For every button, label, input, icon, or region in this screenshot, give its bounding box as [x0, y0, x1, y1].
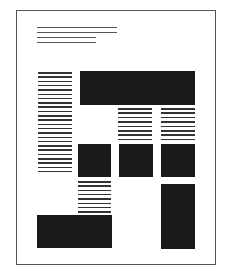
text-line — [38, 158, 72, 160]
text-line — [118, 130, 152, 132]
text-line — [38, 154, 72, 156]
tall-block-right — [161, 184, 195, 249]
square-block-middle — [119, 144, 153, 177]
text-line — [38, 94, 72, 96]
text-line — [38, 149, 72, 151]
text-line — [38, 98, 72, 100]
header-line — [37, 32, 117, 33]
text-line — [78, 194, 111, 196]
text-line — [118, 121, 152, 123]
text-line — [38, 137, 72, 139]
text-line — [38, 81, 72, 83]
text-line — [161, 139, 195, 141]
text-line — [38, 162, 72, 164]
header-line — [37, 27, 117, 28]
text-line — [38, 128, 72, 130]
top-banner-block — [80, 71, 195, 105]
text-line — [161, 130, 195, 132]
text-line — [38, 145, 72, 147]
text-line — [38, 124, 72, 126]
text-line — [38, 132, 72, 134]
left-column-text — [38, 72, 72, 175]
text-line — [78, 181, 111, 183]
text-line — [78, 211, 111, 213]
text-line — [118, 112, 152, 114]
square-block-right — [161, 144, 195, 177]
text-line — [78, 185, 111, 187]
text-line — [38, 106, 72, 108]
text-line — [38, 89, 72, 91]
text-line — [161, 108, 195, 110]
text-line — [38, 85, 72, 87]
text-line — [38, 141, 72, 143]
lower-left-column-text — [78, 181, 111, 215]
right-column-text — [161, 108, 195, 143]
text-line — [38, 119, 72, 121]
text-line — [118, 117, 152, 119]
text-line — [38, 72, 72, 74]
text-line — [38, 102, 72, 104]
text-line — [38, 167, 72, 169]
square-block-left — [78, 144, 111, 177]
text-line — [118, 126, 152, 128]
text-line — [78, 190, 111, 192]
text-line — [161, 112, 195, 114]
text-line — [78, 203, 111, 205]
header-line — [37, 42, 96, 43]
text-line — [161, 134, 195, 136]
text-line — [118, 134, 152, 136]
text-line — [118, 108, 152, 110]
text-line — [78, 207, 111, 209]
text-line — [38, 76, 72, 78]
middle-column-text — [118, 108, 152, 143]
text-line — [118, 139, 152, 141]
bottom-wide-block — [37, 215, 112, 248]
text-line — [38, 111, 72, 113]
text-line — [161, 117, 195, 119]
text-line — [161, 126, 195, 128]
text-line — [38, 171, 72, 173]
text-line — [38, 115, 72, 117]
header-line — [37, 37, 96, 38]
text-line — [78, 198, 111, 200]
text-line — [161, 121, 195, 123]
